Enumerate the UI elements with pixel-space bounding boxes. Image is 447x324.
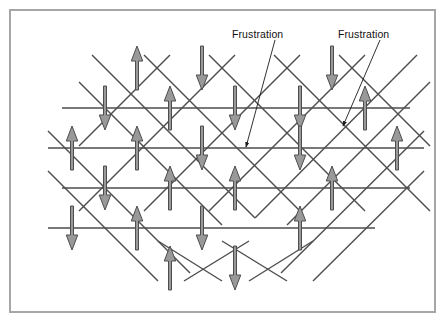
spin-arrow-group <box>66 46 403 290</box>
lattice-diagonal-line <box>92 55 255 218</box>
leader-line <box>246 40 275 147</box>
figure-canvas: Frustration Frustration <box>0 0 447 324</box>
spin-arrow-shape <box>164 246 176 290</box>
spin-arrow-up <box>164 246 176 290</box>
lattice-diagonal-line <box>281 131 424 273</box>
lattice-diagonal-line <box>249 241 313 281</box>
lattice-diagonal-line <box>79 55 170 146</box>
frustration-label-1: Frustration <box>232 28 283 40</box>
leader-line <box>343 40 380 126</box>
lattice-diagonal-line <box>339 55 430 146</box>
spin-lattice-svg <box>0 0 447 324</box>
frustration-label-2: Frustration <box>338 28 389 40</box>
